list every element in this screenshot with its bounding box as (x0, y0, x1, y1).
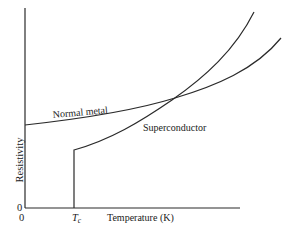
tc-tick-label: Tc (72, 212, 82, 225)
origin-x-label: 0 (19, 212, 24, 223)
x-axis-label: Temperature (K) (107, 212, 174, 224)
superconductor-label: Superconductor (143, 122, 207, 133)
resistivity-chart: Resistivity 0 0 Tc Temperature (K) Norma… (0, 0, 285, 230)
y-axis-label: Resistivity (14, 137, 25, 183)
tc-sub: c (78, 216, 82, 225)
